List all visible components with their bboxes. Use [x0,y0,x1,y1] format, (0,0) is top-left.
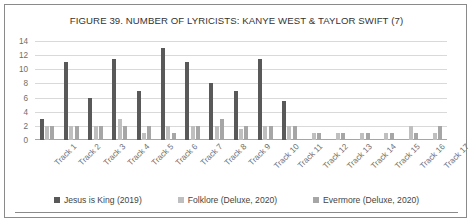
bar [438,126,442,140]
legend-label: Folklore (Deluxe, 2020) [188,195,277,205]
x-axis-tick-cell: Track 12 [302,140,326,190]
legend-swatch [178,197,184,203]
legend-item: Folklore (Deluxe, 2020) [178,195,277,205]
bar [161,48,165,140]
y-axis-tick-4: 4 [23,107,28,116]
bar [50,126,54,140]
bar [282,101,286,140]
x-axis-tick-cell: Track 11 [277,140,301,190]
bar [263,126,267,140]
bar [118,119,122,140]
bar-group [326,41,350,140]
bar [220,119,224,140]
y-axis-tick-8: 8 [23,79,28,88]
bar [99,126,103,140]
bar [137,91,141,141]
bar [269,126,273,140]
bar [191,126,195,140]
bar [390,133,394,140]
bar [166,126,170,140]
bar-group [423,41,447,140]
legend-swatch [313,197,319,203]
bar-group [205,41,229,140]
legend-label: Jesus is King (2019) [64,195,142,205]
x-axis-tick-cell: Track 9 [229,140,253,190]
bar [94,126,98,140]
y-axis-tick-10: 10 [19,65,28,74]
x-axis-tick-labels: Track 1Track 2Track 3Track 4Track 5Track… [35,140,447,190]
legend-label: Evermore (Deluxe, 2020) [323,195,419,205]
bar [185,62,189,140]
bar [293,126,297,140]
bar [75,126,79,140]
bar [142,133,146,140]
chart-title: FIGURE 39. NUMBER OF LYRICISTS: KANYE WE… [5,15,468,26]
bar [88,98,92,140]
bar-group [229,41,253,140]
legend-item: Evermore (Deluxe, 2020) [313,195,419,205]
bar [433,133,437,140]
bar [312,133,316,140]
x-axis-tick-cell: Track 8 [205,140,229,190]
x-axis-tick-cell: Track 4 [108,140,132,190]
y-axis-tick-labels: 02468101214 [5,35,31,146]
bar [40,119,44,140]
bar-group [180,41,204,140]
x-axis-tick-cell: Track 7 [180,140,204,190]
bar-group [35,41,59,140]
bar [414,133,418,140]
plot-area [35,41,447,140]
bar [366,133,370,140]
x-axis-tick-cell: Track 6 [156,140,180,190]
footer-rule [15,212,458,213]
bar [341,133,345,140]
bar-group [302,41,326,140]
x-axis-tick-cell: Track 14 [350,140,374,190]
x-axis-tick-cell: Track 13 [326,140,350,190]
x-axis-tick-cell: Track 2 [59,140,83,190]
bar [64,62,68,140]
bar [317,133,321,140]
bar [409,126,413,140]
bar [244,126,248,140]
chart-legend: Jesus is King (2019)Folklore (Deluxe, 20… [5,195,468,205]
bar-group [277,41,301,140]
bar [123,126,127,140]
bar [45,126,49,140]
y-axis-tick-6: 6 [23,93,28,102]
bar [209,83,213,140]
bar [336,133,340,140]
y-axis-tick-12: 12 [19,51,28,60]
y-axis-tick-14: 14 [19,37,28,46]
bar-group [399,41,423,140]
legend-swatch [54,197,60,203]
bar-group [350,41,374,140]
bar-group [132,41,156,140]
bar [287,126,291,140]
bar-group [108,41,132,140]
x-axis-tick-cell: Track 17 [423,140,447,190]
bar [196,126,200,140]
x-axis-tick-cell: Track 15 [374,140,398,190]
bar-group [83,41,107,140]
x-axis-tick-cell: Track 16 [399,140,423,190]
bar-groups [35,41,447,140]
bar [234,91,238,141]
x-axis-tick-cell: Track 3 [83,140,107,190]
x-axis-tick-cell: Track 1 [35,140,59,190]
bar-group [156,41,180,140]
bar [112,59,116,140]
legend-item: Jesus is King (2019) [54,195,142,205]
bar-group [59,41,83,140]
bar [360,133,364,140]
bar [215,126,219,140]
bar-group [253,41,277,140]
x-axis-tick-cell: Track 10 [253,140,277,190]
x-axis-tick-cell: Track 5 [132,140,156,190]
bar [384,133,388,140]
y-axis-tick-2: 2 [23,121,28,130]
chart-frame: FIGURE 39. NUMBER OF LYRICISTS: KANYE WE… [4,4,467,218]
x-axis-tick-label: Track 17 [442,142,471,171]
y-axis-tick-0: 0 [23,136,28,145]
bar-group [374,41,398,140]
